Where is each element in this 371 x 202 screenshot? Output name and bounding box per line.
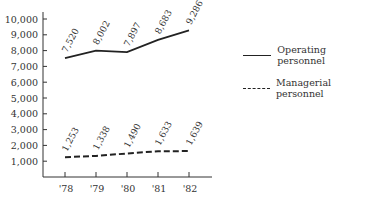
data-label: 9,286 bbox=[184, 0, 205, 26]
data-label: 1,338 bbox=[91, 124, 112, 152]
y-tick-label: 3,000 bbox=[11, 124, 38, 135]
data-label: 8,002 bbox=[91, 19, 112, 46]
legend-label-managerial: Managerial personnel bbox=[276, 77, 371, 99]
plot-area: 1,0002,0003,0004,0005,0006,0007,0008,000… bbox=[0, 0, 371, 202]
y-tick-label: 7,000 bbox=[11, 61, 38, 72]
dashed-line-swatch-icon bbox=[243, 88, 270, 89]
y-tick-label: 8,000 bbox=[11, 45, 38, 56]
data-label: 1,490 bbox=[122, 122, 143, 150]
data-label: 7,897 bbox=[122, 20, 143, 48]
x-tick-label: '81 bbox=[152, 183, 167, 194]
y-tick-label: 2,000 bbox=[11, 140, 38, 151]
data-label: 1,253 bbox=[60, 125, 81, 153]
y-tick-label: 5,000 bbox=[11, 93, 38, 104]
data-label: 1,639 bbox=[184, 119, 205, 147]
solid-line-swatch-icon bbox=[243, 55, 271, 56]
line-chart: 1,0002,0003,0004,0005,0006,0007,0008,000… bbox=[0, 0, 371, 202]
x-tick-label: '78 bbox=[59, 183, 74, 194]
x-tick-label: '82 bbox=[183, 183, 198, 194]
y-tick-label: 6,000 bbox=[11, 77, 38, 88]
y-tick-label: 9,000 bbox=[11, 29, 38, 40]
y-tick-label: 10,000 bbox=[5, 14, 38, 25]
legend-item-operating: Operating personnel bbox=[243, 44, 371, 66]
legend-item-managerial: Managerial personnel bbox=[243, 77, 371, 99]
y-tick-label: 4,000 bbox=[11, 108, 38, 119]
x-tick-label: '79 bbox=[90, 183, 105, 194]
x-tick-label: '80 bbox=[121, 183, 136, 194]
managerial-personnel-line bbox=[65, 151, 189, 157]
data-label: 7,520 bbox=[60, 26, 81, 54]
y-tick-label: 1,000 bbox=[11, 156, 38, 167]
data-label: 1,633 bbox=[153, 119, 174, 147]
legend-label-operating: Operating personnel bbox=[277, 44, 371, 66]
data-label: 8,683 bbox=[153, 8, 174, 36]
